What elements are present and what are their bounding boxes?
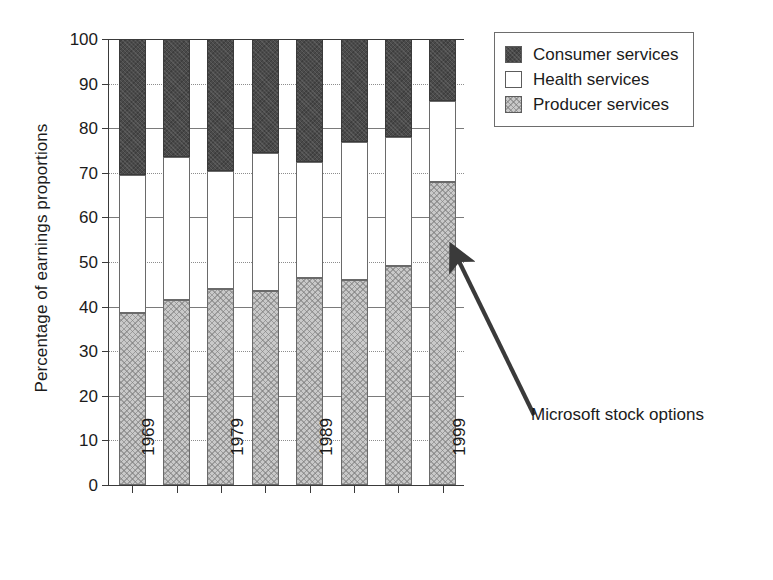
- bar[interactable]: [252, 39, 279, 485]
- y-axis-tick-label: 10: [52, 432, 98, 449]
- x-axis-tick: [443, 485, 444, 493]
- y-axis-tick: [102, 307, 109, 308]
- annotation-label: Microsoft stock options: [531, 405, 704, 425]
- bar-segment-consumer[interactable]: [252, 39, 279, 153]
- bar-segment-health[interactable]: [341, 142, 368, 280]
- y-axis-tick-label: 80: [52, 120, 98, 137]
- bar-segment-health[interactable]: [429, 101, 456, 181]
- y-axis-tick: [102, 173, 109, 174]
- bar-segment-consumer[interactable]: [429, 39, 456, 101]
- y-axis-tick-label: 30: [52, 343, 98, 360]
- bar-segment-health[interactable]: [119, 175, 146, 313]
- legend-swatch-health-icon: [505, 71, 522, 88]
- y-axis-tick-label: 40: [52, 299, 98, 316]
- bar-segment-health[interactable]: [296, 162, 323, 278]
- x-axis-tick: [221, 485, 222, 493]
- y-axis-tick: [102, 39, 109, 40]
- bar-segment-producer[interactable]: [163, 300, 190, 485]
- bar-segment-producer[interactable]: [341, 280, 368, 485]
- y-axis-tick: [102, 485, 109, 486]
- bar-segment-consumer[interactable]: [163, 39, 190, 157]
- bar-segment-producer[interactable]: [385, 266, 412, 485]
- y-axis-tick: [102, 396, 109, 397]
- legend-swatch-consumer-icon: [505, 46, 522, 63]
- bar-segment-producer[interactable]: [252, 291, 279, 485]
- bar-segment-health[interactable]: [163, 157, 190, 300]
- y-axis-tick-label: 50: [52, 254, 98, 271]
- bar[interactable]: [341, 39, 368, 485]
- y-axis-tick: [102, 217, 109, 218]
- x-axis-tick-label: 1999: [450, 418, 470, 498]
- y-axis-title: Percentage of earnings proportions: [32, 48, 52, 468]
- x-axis-tick: [354, 485, 355, 493]
- bar-segment-consumer[interactable]: [385, 39, 412, 137]
- bar-segment-consumer[interactable]: [341, 39, 368, 142]
- y-axis-tick-label: 70: [52, 165, 98, 182]
- x-axis-tick: [398, 485, 399, 493]
- legend-item-consumer[interactable]: Consumer services: [505, 42, 679, 67]
- y-axis-tick: [102, 262, 109, 263]
- y-axis-tick-label: 90: [52, 76, 98, 93]
- legend-label-health: Health services: [533, 70, 649, 90]
- y-axis-tick: [102, 351, 109, 352]
- bar-segment-consumer[interactable]: [296, 39, 323, 162]
- legend-item-health[interactable]: Health services: [505, 67, 679, 92]
- y-axis-tick-label: 100: [52, 31, 98, 48]
- x-axis-tick: [265, 485, 266, 493]
- bar-segment-health[interactable]: [207, 171, 234, 289]
- x-axis-tick-label: 1979: [228, 418, 248, 498]
- legend: Consumer services Health services Produc…: [494, 32, 694, 127]
- legend-item-producer[interactable]: Producer services: [505, 92, 679, 117]
- plot-area: [108, 39, 464, 486]
- bar-segment-health[interactable]: [252, 153, 279, 291]
- legend-label-consumer: Consumer services: [533, 45, 679, 65]
- x-axis-tick-label: 1989: [317, 418, 337, 498]
- y-axis-tick-label: 60: [52, 209, 98, 226]
- bar-segment-consumer[interactable]: [119, 39, 146, 175]
- y-axis-tick: [102, 128, 109, 129]
- x-axis-tick: [310, 485, 311, 493]
- legend-swatch-producer-icon: [505, 96, 522, 113]
- bar[interactable]: [163, 39, 190, 485]
- x-axis-tick: [132, 485, 133, 493]
- x-axis-tick-label: 1969: [139, 418, 159, 498]
- y-axis-tick-label: 0: [52, 477, 98, 494]
- bar[interactable]: [385, 39, 412, 485]
- legend-label-producer: Producer services: [533, 95, 669, 115]
- bar-segment-health[interactable]: [385, 137, 412, 266]
- x-axis-tick: [177, 485, 178, 493]
- y-axis-tick: [102, 440, 109, 441]
- bar-segment-consumer[interactable]: [207, 39, 234, 171]
- y-axis-tick: [102, 84, 109, 85]
- chart-figure: Percentage of earnings proportions 10090…: [0, 0, 773, 580]
- y-axis-tick-label: 20: [52, 388, 98, 405]
